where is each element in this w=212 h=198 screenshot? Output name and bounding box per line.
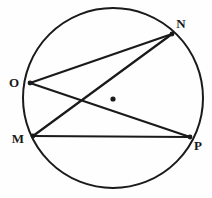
vertex-dot-N <box>170 32 175 37</box>
vertex-dot-M <box>31 134 36 139</box>
chord-M-N <box>33 34 172 136</box>
center-point <box>110 96 115 101</box>
vertex-dot-P <box>188 135 193 140</box>
chord-M-P <box>33 136 190 137</box>
vertex-label-O: O <box>9 76 19 89</box>
chord-O-P <box>30 83 190 137</box>
chord-O-N <box>30 34 172 83</box>
vertex-label-P: P <box>194 139 202 152</box>
vertex-label-M: M <box>12 132 24 145</box>
vertex-dot-O <box>28 81 33 86</box>
vertex-label-N: N <box>176 17 185 30</box>
circle-geometry-figure: M N O P <box>0 0 212 198</box>
